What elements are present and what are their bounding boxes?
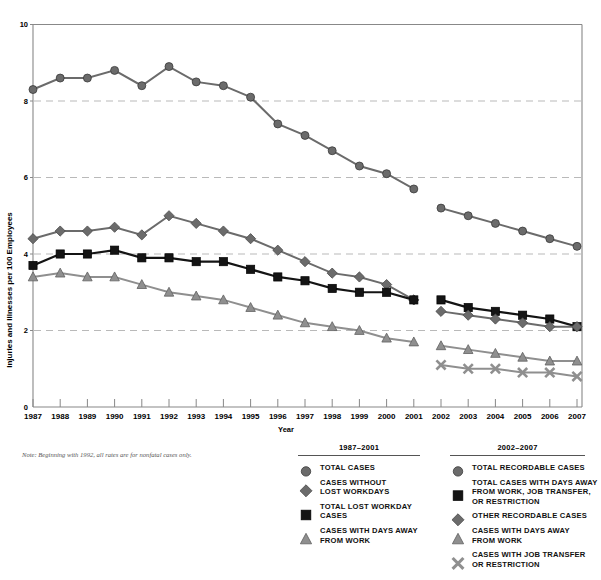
circle-marker	[546, 235, 554, 243]
circle-marker	[111, 66, 119, 74]
y-tick-label: 4	[24, 250, 29, 259]
x-tick-label: 2005	[514, 412, 532, 421]
circle-marker	[491, 219, 499, 227]
x-tick-label: 1994	[215, 412, 233, 421]
data-series-group	[28, 63, 582, 381]
circle-marker	[29, 86, 37, 94]
circle-marker	[437, 204, 445, 212]
x-tick-label: 2006	[541, 412, 559, 421]
diamond-marker	[82, 226, 92, 236]
series-diamond-2002-2007	[436, 306, 582, 332]
legend-2002-2007: 2002–2007TOTAL RECORDABLE CASESTOTAL CAS…	[450, 443, 597, 569]
square-marker	[83, 250, 91, 258]
x-tick-label: 1988	[51, 412, 69, 421]
chart-page: 0246810 19871988198919901991199219931994…	[0, 0, 601, 580]
series-line	[441, 365, 577, 376]
y-tick-label: 2	[24, 326, 28, 335]
x-tick-label: 1999	[351, 412, 369, 421]
diamond-marker	[55, 226, 65, 236]
legend-swatch	[300, 533, 311, 544]
legend-item-label: CASES WITHOUT	[320, 478, 386, 487]
x-tick-label: 2007	[568, 412, 586, 421]
square-marker	[219, 258, 227, 266]
legend-item-label: TOTAL CASES	[320, 463, 375, 472]
x-tick-label: 2004	[487, 412, 505, 421]
circle-marker	[192, 78, 200, 86]
chart-note: Note: Beginning with 1992, all rates are…	[21, 451, 192, 458]
legend-item-label: CASES WITH JOB TRANSFER	[472, 550, 586, 559]
legend-item-label: OR RESTRICTION	[472, 560, 540, 569]
legend-1987-2001: 1987–2001TOTAL CASESCASES WITHOUTLOST WO…	[298, 443, 420, 545]
series-circle-1987-2001	[29, 63, 418, 193]
series-line	[441, 346, 577, 361]
square-marker	[192, 258, 200, 266]
square-marker	[410, 296, 418, 304]
square-marker	[328, 284, 336, 292]
circle-marker	[519, 227, 527, 235]
diamond-marker	[436, 306, 446, 316]
circle-marker	[56, 74, 64, 82]
diamond-marker	[300, 485, 312, 497]
injury-illness-rate-line-chart: 0246810 19871988198919901991199219931994…	[0, 0, 601, 580]
diamond-marker	[327, 268, 337, 278]
circle-marker	[301, 467, 310, 476]
diamond-marker	[246, 234, 256, 244]
diamond-marker	[110, 222, 120, 232]
triangle-marker	[436, 341, 446, 350]
x-tick-label: 2001	[405, 412, 423, 421]
x-tick-label: 2003	[459, 412, 477, 421]
x-tick-label: 2002	[432, 412, 450, 421]
legend-item-label: TOTAL RECORDABLE CASES	[472, 463, 585, 472]
axes-group	[33, 25, 582, 408]
y-tick-label: 6	[24, 173, 28, 182]
legend-swatch	[301, 467, 310, 476]
y-tick-label: 10	[20, 20, 28, 29]
square-marker	[111, 246, 119, 254]
legend-item-label: CASES	[320, 511, 347, 520]
triangle-marker	[452, 533, 463, 544]
legend-item-label: OTHER RECORDABLE CASES	[472, 511, 587, 520]
square-marker	[301, 277, 309, 285]
circle-marker	[247, 93, 255, 101]
x-tick-label: 1996	[269, 412, 287, 421]
x-tick-label: 1991	[133, 412, 151, 421]
square-marker	[247, 265, 255, 273]
square-marker	[29, 261, 37, 269]
legend-heading: 1987–2001	[339, 443, 379, 452]
diamond-marker	[191, 218, 201, 228]
circle-marker	[138, 82, 146, 90]
x-tick-label: 1993	[187, 412, 205, 421]
legend-item-label: TOTAL LOST WORKDAY	[320, 502, 412, 511]
y-axis-title: Injuries and Illnesses per 100 Employees	[5, 212, 14, 368]
triangle-marker	[300, 533, 311, 544]
circle-marker	[383, 170, 391, 178]
series-x-2002-2007	[436, 360, 581, 381]
x-tick-label: 1987	[24, 412, 42, 421]
circle-marker	[301, 131, 309, 139]
legend-item-label: CASES WITH DAYS AWAY	[472, 526, 570, 535]
legend-item-label: TOTAL CASES WITH DAYS AWAY	[472, 478, 597, 487]
legend-swatch	[453, 467, 462, 476]
circle-marker	[274, 120, 282, 128]
diamond-marker	[300, 257, 310, 267]
diamond-marker	[218, 226, 228, 236]
y-tick-labels-group: 0246810	[20, 20, 33, 412]
square-marker	[274, 273, 282, 281]
square-marker	[453, 491, 463, 501]
legend-swatch	[453, 491, 463, 501]
circle-marker	[355, 162, 363, 170]
x-tick-label: 1997	[296, 412, 314, 421]
legend-item-label: FROM WORK, JOB TRANSFER,	[472, 487, 591, 496]
square-marker	[56, 250, 64, 258]
diamond-marker	[354, 272, 364, 282]
circle-marker	[573, 242, 581, 250]
legend-swatch	[301, 510, 311, 520]
legend-item-label: CASES WITH DAYS AWAY	[320, 526, 418, 535]
circle-marker	[453, 467, 462, 476]
triangle-marker	[55, 268, 64, 277]
legend-swatch	[452, 533, 463, 544]
series-circle-2002-2007	[437, 204, 581, 250]
legend-swatch	[453, 558, 464, 569]
x-marker	[453, 558, 464, 569]
x-tick-label: 1995	[242, 412, 260, 421]
